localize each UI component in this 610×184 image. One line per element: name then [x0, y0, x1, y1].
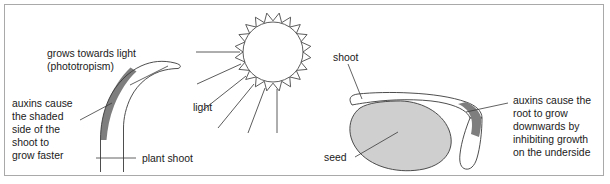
- label-auxins-shoot-line4: shoot to: [12, 137, 49, 148]
- label-auxins-root-line1: auxins cause the: [513, 95, 591, 106]
- label-auxins-root-line5: on the underside: [513, 147, 591, 158]
- label-auxins-shoot-line2: the shaded: [12, 111, 64, 122]
- label-grows-towards-light-line2: (phototropism): [47, 61, 114, 72]
- label-shoot: shoot: [333, 52, 359, 63]
- seed-body: [350, 101, 451, 171]
- label-auxins-shoot-line5: grow faster: [12, 150, 64, 161]
- label-plant-shoot: plant shoot: [142, 153, 193, 164]
- leader-shoot: [348, 64, 362, 99]
- label-light: light: [193, 102, 212, 113]
- label-auxins-root-line3: downwards by: [513, 121, 580, 132]
- light-ray-2: [197, 64, 241, 84]
- tropism-diagram: grows towards light (phototropism) auxin…: [0, 0, 610, 184]
- figure-root: grows towards light (phototropism) auxin…: [0, 0, 610, 184]
- label-auxins-shoot-line3: side of the: [12, 124, 60, 135]
- shoot-tip: [175, 63, 180, 69]
- label-seed: seed: [324, 152, 347, 163]
- sun-disc: [243, 22, 303, 82]
- shoot-shaded-side: [101, 68, 137, 141]
- label-auxins-root-line4: inhibiting growth: [513, 134, 588, 145]
- germinating-seed-group: [350, 92, 482, 170]
- label-grows-towards-light-line1: grows towards light: [47, 48, 136, 59]
- label-auxins-root-line2: root to grow: [513, 108, 568, 119]
- label-auxins-shoot-line1: auxins cause: [12, 98, 73, 109]
- light-ray-5: [248, 88, 265, 133]
- sun: [235, 13, 311, 91]
- light-ray-4: [218, 84, 254, 128]
